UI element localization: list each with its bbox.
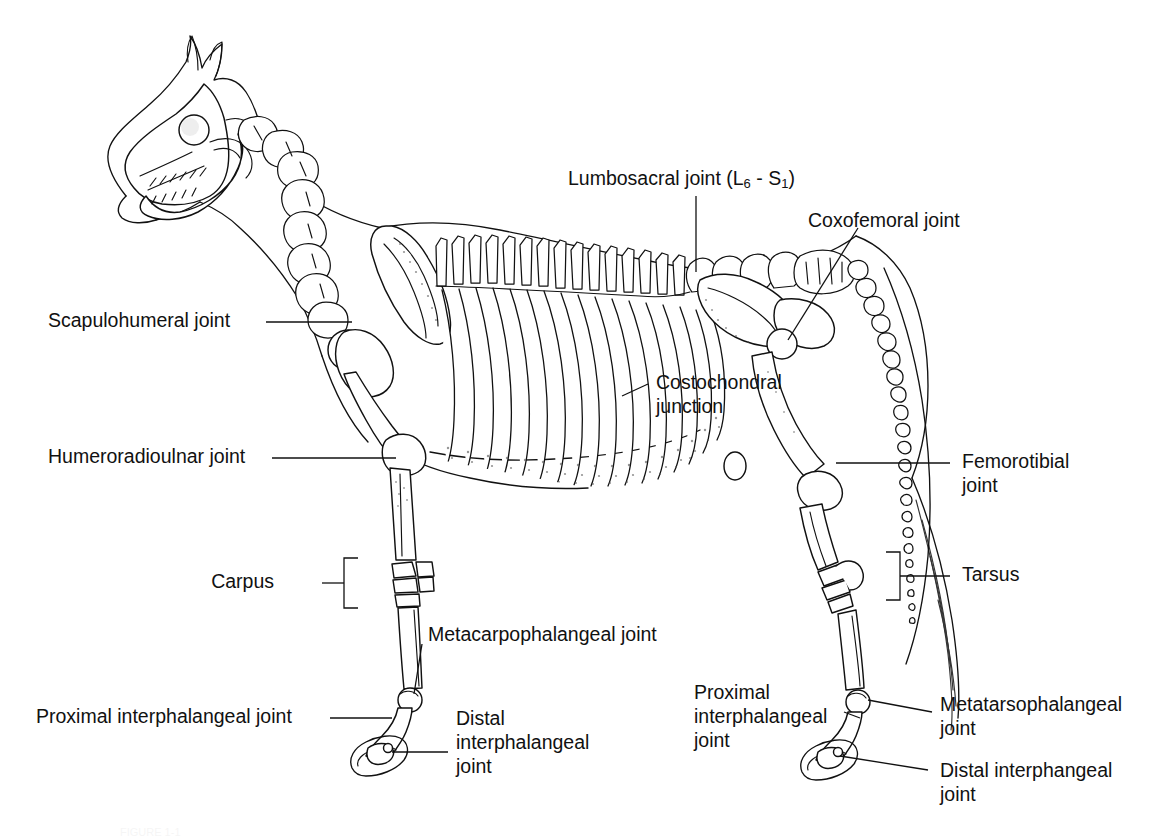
label-costochondral-2: junction xyxy=(655,395,723,417)
label-femorotibial-2: joint xyxy=(961,474,998,496)
label-carpus: Carpus xyxy=(211,570,274,592)
label-fore-distal-3: joint xyxy=(455,755,492,777)
label-fore-distal-2: interphalangeal xyxy=(456,731,589,753)
label-scapulohumeral: Scapulohumeral joint xyxy=(48,309,231,331)
hindlimb xyxy=(698,274,870,780)
label-femorotibial-1: Femorotibial xyxy=(962,450,1069,472)
anatomy-figure: Lumbosacral joint (L6 - S1) Coxofemoral … xyxy=(0,0,1167,839)
label-coxofemoral: Coxofemoral joint xyxy=(808,209,960,231)
label-tarsus: Tarsus xyxy=(962,563,1020,585)
label-metatarsophalangeal-1: Metatarsophalangeal xyxy=(940,693,1122,715)
label-lumbosacral: Lumbosacral joint (L6 - S1) xyxy=(568,167,795,191)
label-metatarsophalangeal-2: joint xyxy=(939,717,976,739)
cervical-vertebrae xyxy=(238,117,348,338)
label-hind-proximal-3: joint xyxy=(693,729,730,751)
label-humeroradioulnar: Humeroradioulnar joint xyxy=(48,445,246,467)
leader-hind-distal xyxy=(840,756,928,770)
leader-metatarsophalangeal xyxy=(868,700,932,712)
thoracic-lumbar-vertebrae xyxy=(436,235,854,297)
label-fore-distal-1: Distal xyxy=(456,707,505,729)
label-fore-proximal-interphalangeal: Proximal interphalangeal joint xyxy=(36,705,292,727)
label-hind-proximal-1: Proximal xyxy=(694,681,770,703)
label-hind-proximal-2: interphalangeal xyxy=(694,705,827,727)
label-costochondral-1: Costochondral xyxy=(656,371,782,393)
figure-caption-partial: FIGURE 1-1 xyxy=(120,826,880,835)
bracket-carpus xyxy=(344,558,358,608)
bracket-tarsus xyxy=(886,552,900,600)
label-hind-distal-2: joint xyxy=(939,783,976,805)
label-hind-distal-1: Distal interphangeal xyxy=(940,759,1112,781)
skull xyxy=(125,36,254,219)
label-metacarpophalangeal: Metacarpophalangeal joint xyxy=(428,623,657,645)
forelimb xyxy=(328,330,434,776)
